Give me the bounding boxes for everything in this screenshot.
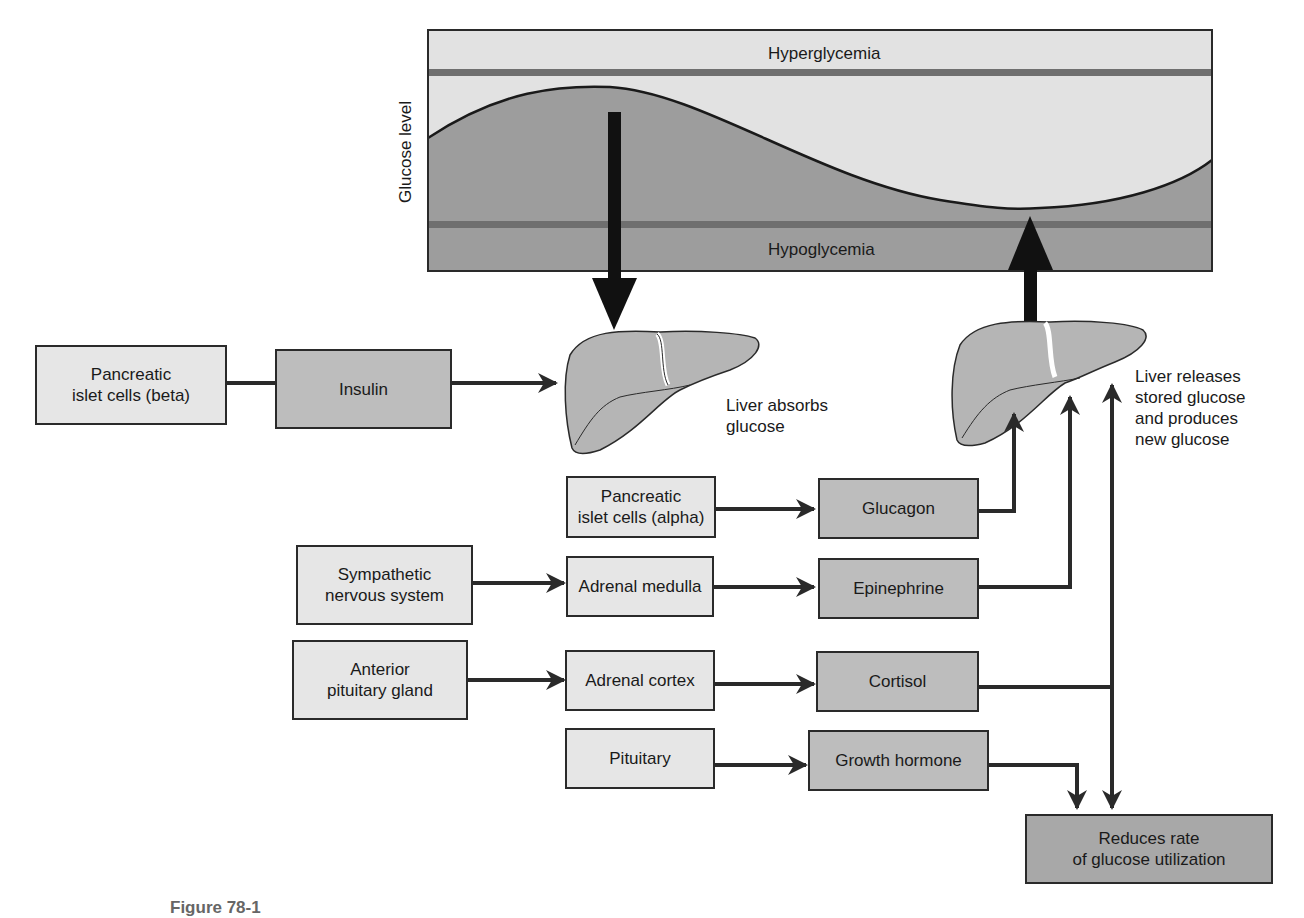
hypoglycemia-label: Hypoglycemia — [768, 240, 875, 260]
box-glucagon: Glucagon — [818, 478, 979, 539]
figure-caption: Figure 78-1 — [170, 898, 261, 918]
liver-releases-illustration — [952, 321, 1146, 445]
box-pituitary: Pituitary — [565, 728, 715, 789]
box-reduces-glucose-utilization: Reduces rateof glucose utilization — [1025, 814, 1273, 884]
liver-releases-label: Liver releases stored glucose and produc… — [1135, 366, 1246, 450]
box-sympathetic-nervous-system: Sympatheticnervous system — [296, 545, 473, 625]
glucose-level-chart — [428, 30, 1212, 271]
box-pancreatic-alpha-cells: Pancreaticislet cells (alpha) — [566, 476, 716, 538]
box-anterior-pituitary-gland: Anteriorpituitary gland — [292, 640, 468, 720]
glucose-level-axis-label: Glucose level — [396, 101, 416, 203]
box-insulin: Insulin — [275, 349, 452, 429]
box-epinephrine: Epinephrine — [818, 558, 979, 619]
box-cortisol: Cortisol — [816, 651, 979, 712]
box-adrenal-cortex: Adrenal cortex — [565, 650, 715, 711]
liver-absorbs-label: Liver absorbs glucose — [726, 395, 828, 437]
box-pancreatic-beta-cells: Pancreaticislet cells (beta) — [35, 345, 227, 425]
box-adrenal-medulla: Adrenal medulla — [566, 556, 714, 617]
hyperglycemia-label: Hyperglycemia — [768, 44, 880, 64]
box-growth-hormone: Growth hormone — [808, 730, 989, 791]
